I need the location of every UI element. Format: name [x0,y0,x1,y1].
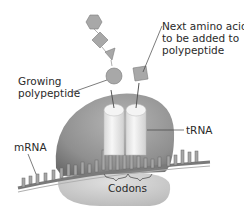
polypeptide-chain [86,15,122,84]
label-line: Growing [18,75,80,87]
trna-left [104,104,124,155]
next-amino-acid-label: Next amino acid to be added to polypepti… [162,20,244,56]
trna-right [126,104,146,155]
growing-polypeptide-label: Growing polypeptide [18,75,80,99]
trna-label: tRNA [186,124,212,136]
mrna-label: mRNA [14,141,47,153]
label-line: polypeptide [18,87,80,99]
label-line: Next amino acid [162,20,244,32]
label-line: polypeptide [162,44,244,56]
codons-label: Codons [108,182,147,194]
label-line: to be added to [162,32,244,44]
next-amino-acid [133,66,148,81]
